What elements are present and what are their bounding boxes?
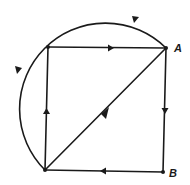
- node-bottom-left: [43, 168, 47, 172]
- arrow-up-icon: [43, 108, 50, 114]
- arrow-right-icon: [108, 45, 114, 52]
- label-a: A: [173, 42, 182, 54]
- node-top-left: [46, 45, 50, 49]
- edge-top-left-to-a: [48, 47, 166, 48]
- node-b: [161, 170, 165, 174]
- arrow-arc-top-icon: [132, 16, 139, 23]
- arrow-left-icon: [100, 168, 106, 175]
- node-a: [164, 46, 168, 50]
- arc-edge-a-to-bottom-left: [20, 23, 166, 170]
- edge-diagonal-bottom-left-to-a: [45, 48, 166, 170]
- circuit-diagram: A B: [0, 0, 190, 185]
- arrow-arc-left-icon: [15, 66, 22, 74]
- label-b: B: [169, 167, 177, 179]
- arrow-down-icon: [162, 108, 169, 114]
